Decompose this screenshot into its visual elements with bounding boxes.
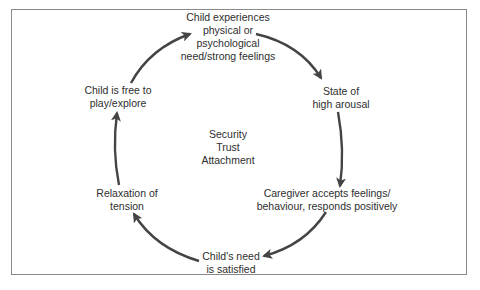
node-child-experiences-need: Child experiences physical or psychologi…	[181, 11, 276, 63]
node-state-of-high-arousal: State of high arousal	[312, 85, 369, 111]
node-relaxation-of-tension: Relaxation of tension	[96, 187, 157, 213]
node-text-line: behaviour, responds positively	[257, 200, 398, 213]
node-childs-need-satisfied: Child's need is satisfied	[202, 250, 259, 276]
center-text-line: Trust	[201, 141, 254, 154]
node-child-free-to-play: Child is free to play/explore	[84, 84, 151, 110]
node-text-line: high arousal	[312, 98, 369, 111]
node-text-line: Relaxation of	[96, 187, 157, 200]
node-text-line: need/strong feelings	[181, 50, 276, 63]
node-text-line: Child is free to	[84, 84, 151, 97]
center-text-line: Security	[201, 128, 254, 141]
arrow-arousal-to-caregiver	[338, 112, 342, 186]
node-text-line: play/explore	[84, 97, 151, 110]
arrow-relaxation-to-free	[115, 113, 119, 185]
node-caregiver-accepts: Caregiver accepts feelings/ behaviour, r…	[257, 187, 398, 213]
arrow-caregiver-to-satisfied	[264, 212, 326, 256]
node-text-line: Child's need	[202, 250, 259, 263]
node-text-line: Caregiver accepts feelings/	[257, 187, 398, 200]
node-text-line: State of	[312, 85, 369, 98]
node-text-line: tension	[96, 200, 157, 213]
node-text-line: psychological	[181, 37, 276, 50]
node-text-line: is satisfied	[202, 263, 259, 276]
center-text-line: Attachment	[201, 154, 254, 167]
node-text-line: Child experiences	[181, 11, 276, 24]
arrow-satisfied-to-relaxation	[134, 214, 199, 261]
center-label-security-trust-attachment: Security Trust Attachment	[201, 128, 254, 167]
node-text-line: physical or	[181, 24, 276, 37]
